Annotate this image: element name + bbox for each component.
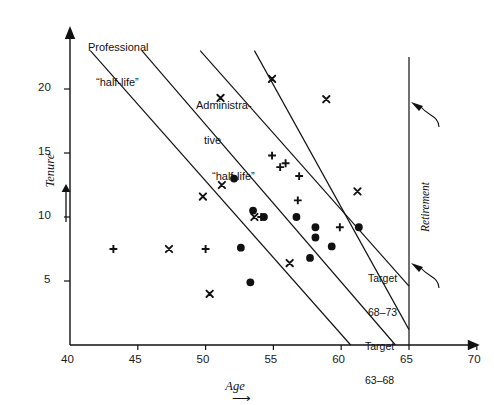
- y-axis-title-text: Tenure: [43, 154, 57, 188]
- x-tick-label-40: 40: [61, 353, 74, 365]
- retirement-label: Retirement: [419, 182, 431, 232]
- data-point-circle-6: [328, 243, 336, 251]
- data-point-plus-2: [276, 163, 284, 171]
- data-point-plus-8: [202, 245, 210, 253]
- data-point-circle-8: [237, 244, 245, 252]
- target-63-68-line1: Target: [365, 341, 394, 352]
- target-68-73-line1: Target: [368, 273, 397, 284]
- x-axis-arrow-icon: ⟶: [226, 392, 251, 405]
- data-point-circle-1: [249, 207, 257, 215]
- data-point-plus-7: [109, 245, 117, 253]
- administrative-halflife-line1: Administra-: [196, 100, 255, 112]
- y-tick-label-10: 10: [38, 209, 51, 221]
- data-point-plus-3: [295, 172, 303, 180]
- professional-halflife-line2: “half-life”: [88, 77, 149, 89]
- data-point-circle-10: [246, 278, 254, 286]
- page-bleed-artifact: [296, 1, 300, 11]
- x-axis-arrowhead: [468, 340, 480, 350]
- data-point-cross-8: [206, 291, 212, 297]
- target-63-68-line2: 63–68: [365, 375, 394, 386]
- administrative-halflife-line3: “half-life”: [196, 171, 255, 183]
- x-tick-label-45: 45: [129, 353, 142, 365]
- data-point-cross-5: [251, 214, 257, 220]
- data-point-plus-0: [268, 152, 276, 160]
- data-point-circle-4: [312, 223, 320, 231]
- x-tick-label-55: 55: [264, 353, 277, 365]
- brace-curve-1: [420, 267, 439, 288]
- data-point-cross-2: [323, 96, 329, 102]
- data-point-circle-5: [312, 234, 320, 242]
- y-arrow-glyph: [60, 182, 72, 222]
- data-point-circle-7: [355, 223, 363, 231]
- data-point-circle-3: [293, 213, 301, 221]
- target-63-68-label: Target 63–68: [365, 318, 394, 405]
- brace-arrowhead-0: [411, 102, 423, 111]
- data-point-plus-6: [336, 223, 344, 231]
- x-tick-label-50: 50: [197, 353, 210, 365]
- reference-line-administrative-half-life: [142, 51, 396, 345]
- data-point-cross-7: [286, 260, 292, 266]
- brace-arrowhead-1: [411, 263, 423, 272]
- administrative-halflife-line2: tive: [196, 135, 255, 147]
- data-point-cross-6: [354, 188, 360, 194]
- y-axis-arrowhead: [65, 26, 75, 39]
- x-tick-label-65: 65: [400, 353, 413, 365]
- data-point-plus-4: [294, 196, 302, 204]
- y-axis-arrow-icon: [60, 152, 76, 252]
- data-point-circle-9: [306, 254, 314, 262]
- x-tick-label-70: 70: [468, 353, 481, 365]
- administrative-halflife-label: Administra- tive “half-life”: [196, 76, 255, 207]
- y-tick-label-5: 5: [44, 273, 50, 285]
- brace-curve-0: [420, 106, 439, 127]
- professional-halflife-label: Professional “half-life”: [88, 18, 149, 113]
- professional-halflife-line1: Professional: [88, 42, 149, 54]
- x-tick-label-60: 60: [332, 353, 345, 365]
- data-point-cross-9: [166, 246, 172, 252]
- y-tick-label-20: 20: [38, 81, 51, 93]
- data-point-plus-1: [282, 159, 290, 167]
- x-axis-title-text: Age: [225, 379, 244, 393]
- target-68-73-line2: 68–73: [368, 307, 397, 318]
- x-axis-title: Age ⟶: [213, 366, 251, 405]
